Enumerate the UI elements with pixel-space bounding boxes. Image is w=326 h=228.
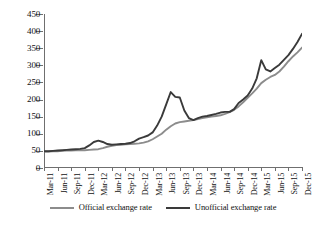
x-axis-tick-label: Jun-15 [278,173,286,194]
series-line [44,34,302,151]
x-axis-tick-label: Dec-15 [305,173,313,195]
legend-swatch-icon [166,207,190,209]
x-axis-tick-label: Jun-11 [61,173,69,193]
x-axis-tick-label: Jun-12 [115,173,123,194]
x-axis-tick-label: Mar-11 [47,173,55,195]
legend-label: Unofficial exchange rate [195,203,276,212]
legend-item[interactable]: Unofficial exchange rate [166,203,276,212]
x-axis-tick-label: Mar-13 [156,173,164,196]
plot-area [44,14,302,168]
x-axis-tick-label: Mar-14 [210,173,218,196]
legend-swatch-icon [50,207,74,209]
x-axis-tick-label: Sep-13 [183,173,191,194]
x-axis-tick-label: Dec-12 [142,173,150,195]
exchange-rate-line-chart: 050100150200250300350400450 Mar-11Jun-11… [0,0,326,228]
x-axis-tick-label: Dec-14 [251,173,259,195]
legend-item[interactable]: Official exchange rate [50,203,152,212]
x-axis-tick-label: Mar-12 [101,173,109,196]
chart-legend: Official exchange rateUnofficial exchang… [0,203,326,212]
x-axis-tick-label: Sep-11 [74,173,82,194]
x-axis-tick-label: Dec-13 [196,173,204,195]
x-axis-tick-label: Sep-15 [291,173,299,194]
x-axis-tick-label: Dec-11 [88,173,96,195]
x-axis-tick-label: Sep-14 [237,173,245,194]
x-axis-tick-label: Jun-13 [169,173,177,194]
x-axis-tick-label: Sep-12 [128,173,136,194]
x-axis-tick-label: Jun-14 [224,173,232,194]
legend-label: Official exchange rate [79,203,152,212]
x-axis-tick-label: Mar-15 [264,173,272,196]
series-lines [44,14,302,168]
